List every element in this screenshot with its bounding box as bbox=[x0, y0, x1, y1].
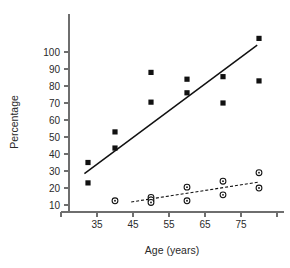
x-tick-label: 45 bbox=[127, 219, 139, 230]
trendlines-group bbox=[84, 45, 259, 202]
y-tick-label: 100 bbox=[43, 47, 60, 58]
data-point-circle-center bbox=[114, 200, 116, 202]
y-tick-label: 60 bbox=[49, 115, 61, 126]
data-point-square bbox=[256, 78, 261, 83]
axes-group bbox=[61, 14, 284, 212]
x-tick-label: 35 bbox=[91, 219, 103, 230]
data-point-square bbox=[220, 100, 225, 105]
y-tick-label: 30 bbox=[49, 166, 61, 177]
data-point-square bbox=[184, 90, 189, 95]
x-tick-labels-group: 3545556575 bbox=[91, 219, 247, 230]
tick-marks-group bbox=[61, 52, 277, 217]
x-tick-label: 65 bbox=[199, 219, 211, 230]
data-point-circle-center bbox=[222, 194, 224, 196]
data-point-square bbox=[220, 74, 225, 79]
data-point-square bbox=[85, 160, 90, 165]
data-point-circle-center bbox=[258, 172, 260, 174]
data-point-square bbox=[148, 70, 153, 75]
y-tick-label: 90 bbox=[49, 64, 61, 75]
y-tick-label: 40 bbox=[49, 149, 61, 160]
data-point-square bbox=[112, 129, 117, 134]
y-axis-title: Percentage bbox=[8, 95, 20, 149]
trendline-filled-squares bbox=[84, 45, 257, 173]
data-point-circle-center bbox=[150, 202, 152, 204]
y-tick-label: 10 bbox=[49, 200, 61, 211]
data-point-circle-center bbox=[258, 187, 260, 189]
y-tick-labels-group: 102030405060708090100 bbox=[43, 47, 60, 211]
y-tick-label: 70 bbox=[49, 98, 61, 109]
chart-figure: 102030405060708090100 3545556575 Percent… bbox=[0, 0, 290, 268]
y-tick-label: 20 bbox=[49, 183, 61, 194]
x-axis-title: Age (years) bbox=[145, 244, 199, 256]
data-point-circle-center bbox=[186, 200, 188, 202]
scatter-plot-svg: 102030405060708090100 3545556575 Percent… bbox=[0, 0, 290, 268]
y-tick-label: 80 bbox=[49, 81, 61, 92]
y-tick-label: 50 bbox=[49, 132, 61, 143]
x-tick-label: 55 bbox=[163, 219, 175, 230]
data-point-square bbox=[85, 180, 90, 185]
data-point-square bbox=[148, 100, 153, 105]
data-point-circle-center bbox=[186, 186, 188, 188]
data-point-square bbox=[112, 145, 117, 150]
data-point-circle-center bbox=[222, 180, 224, 182]
data-point-square bbox=[256, 36, 261, 41]
x-tick-label: 75 bbox=[235, 219, 247, 230]
data-point-square bbox=[184, 77, 189, 82]
